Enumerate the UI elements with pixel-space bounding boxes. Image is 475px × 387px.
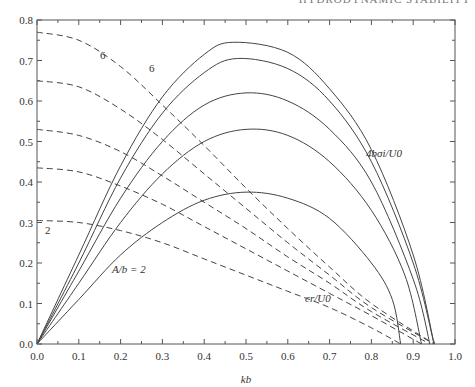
y-tick-label: 0.1 [19, 298, 33, 310]
x-tick-label: 0.5 [239, 350, 253, 362]
x-tick-label: 0.4 [197, 350, 211, 362]
x-tick-label: 0.8 [365, 350, 379, 362]
x-tick-label: 0.3 [156, 350, 170, 362]
y-tick-label: 0.3 [19, 217, 33, 229]
x-tick-label: 0.0 [30, 350, 44, 362]
growth-rate-curve [37, 192, 401, 344]
x-tick-label: 0.6 [281, 350, 295, 362]
y-tick-label: 0.4 [19, 176, 33, 188]
y-tick-label: 0.5 [19, 136, 33, 148]
y-tick-label: 0.0 [19, 338, 33, 350]
plot-frame [37, 20, 455, 344]
phase-speed-label: cr/U0 [305, 292, 331, 304]
phase-speed-curve [37, 168, 422, 344]
dashed-curve-high-label: 6 [100, 49, 106, 61]
plot-area [37, 32, 434, 344]
axes: 0.00.10.20.30.40.50.60.70.80.91.00.00.10… [19, 14, 462, 362]
x-tick-label: 1.0 [448, 350, 462, 362]
parameter-label: A/b = 2 [111, 263, 146, 275]
solid-curve-high-label: 6 [149, 62, 155, 74]
dashed-curve-low-label: 2 [45, 224, 51, 236]
y-tick-label: 0.7 [19, 55, 33, 67]
y-tick-label: 0.2 [19, 257, 33, 269]
y-tick-label: 0.8 [19, 14, 33, 26]
x-tick-label: 0.7 [323, 350, 337, 362]
phase-speed-curve [37, 81, 434, 344]
chart: 0.00.10.20.30.40.50.60.70.80.91.00.00.10… [0, 0, 475, 387]
x-axis-label: kb [241, 373, 252, 385]
growth-rate-curve [37, 58, 434, 344]
x-tick-label: 0.2 [114, 350, 128, 362]
x-tick-label: 0.1 [72, 350, 86, 362]
growth-rate-label: 4bσi/U0 [366, 147, 402, 159]
y-tick-label: 0.6 [19, 95, 33, 107]
x-tick-label: 0.9 [406, 350, 420, 362]
